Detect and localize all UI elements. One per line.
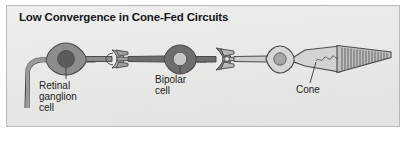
bipolar-nucleus	[173, 52, 187, 66]
ganglion-dendrite	[86, 57, 112, 62]
label-retinal-ganglion-cell: Retinal ganglion cell	[39, 80, 77, 114]
retinal-ganglion-cell	[46, 43, 112, 75]
retinal-circuit-diagram	[0, 0, 420, 141]
figure-root: Low Convergence in Cone-Fed Circuits	[0, 0, 420, 141]
ganglion-nucleus	[58, 51, 75, 68]
label-cone: Cone	[296, 84, 320, 95]
label-bipolar-cell: Bipolar cell	[155, 74, 186, 96]
bipolar-axon	[128, 56, 166, 62]
bipolar-dendrite	[196, 57, 216, 63]
cone-cell	[234, 46, 391, 74]
cone-to-bipolar-synapse	[216, 48, 236, 70]
bipolar-cell	[128, 45, 216, 74]
cone-axon	[234, 56, 268, 62]
cone-nucleus	[274, 53, 286, 65]
